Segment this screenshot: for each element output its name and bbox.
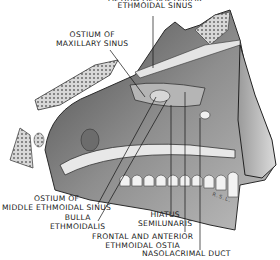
label-hiatus-semilunaris: HIATUS SEMILUNARIS <box>138 210 192 228</box>
label-line: OSTIUM OF <box>2 194 111 203</box>
label-nasolacrimal-duct: NASOLACRIMAL DUCT <box>142 249 231 258</box>
nasolacrimal-opening <box>200 111 210 119</box>
external-nose <box>238 45 276 178</box>
anatomy-figure: OSTIUM OF POSTERIOR ETHMOIDAL SINUS OSTI… <box>0 0 280 260</box>
label-posterior-ethmoidal-ostium: OSTIUM OF POSTERIOR ETHMOIDAL SINUS <box>108 0 202 10</box>
label-line: NASOLACRIMAL DUCT <box>142 249 231 258</box>
label-line: BULLA <box>50 213 105 222</box>
label-line: HIATUS <box>138 210 192 219</box>
label-line: ETHMOIDALIS <box>50 222 105 231</box>
label-frontal-anterior-ethmoidal-ostia: FRONTAL AND ANTERIOR ETHMOIDAL OSTIA <box>92 232 193 250</box>
label-line: FRONTAL AND ANTERIOR <box>92 232 193 241</box>
label-maxillary-ostium: OSTIUM OF MAXILLARY SINUS <box>56 30 128 48</box>
label-line: ETHMOIDAL SINUS <box>108 1 202 10</box>
label-line: OSTIUM OF <box>56 30 128 39</box>
vertebra-fragment <box>10 128 33 168</box>
eustachian-opening <box>81 129 99 151</box>
bone-fragment <box>34 133 44 147</box>
label-line: MAXILLARY SINUS <box>56 39 128 48</box>
label-middle-ethmoidal-ostium: OSTIUM OF MIDDLE ETHMOIDAL SINUS <box>2 194 111 212</box>
label-bulla-ethmoidalis: BULLA ETHMOIDALIS <box>50 213 105 231</box>
label-line: SEMILUNARIS <box>138 219 192 228</box>
label-line: MIDDLE ETHMOIDAL SINUS <box>2 203 111 212</box>
